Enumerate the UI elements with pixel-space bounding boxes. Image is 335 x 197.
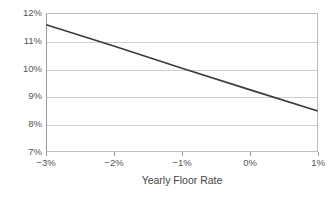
x-tick-label: −3% — [26, 157, 66, 168]
data-series-line — [47, 14, 317, 151]
line-chart: 12% 11% 10% 9% 8% 7% −3% −2% −1% 0% 1% Y… — [0, 0, 335, 197]
y-tick-label: 10% — [2, 64, 42, 74]
x-tick-mark — [318, 152, 319, 156]
y-tick-label: 11% — [2, 36, 42, 46]
y-tick-label: 12% — [2, 8, 42, 18]
y-tick-label: 8% — [2, 119, 42, 129]
x-tick-label: −2% — [94, 157, 134, 168]
x-tick-label: 0% — [230, 157, 270, 168]
y-tick-label: 7% — [2, 147, 42, 157]
x-tick-label: 1% — [298, 157, 335, 168]
x-tick-mark — [114, 152, 115, 156]
x-tick-label: −1% — [162, 157, 202, 168]
y-tick-label: 9% — [2, 91, 42, 101]
plot-area — [46, 13, 318, 152]
x-tick-mark — [250, 152, 251, 156]
series-polyline — [47, 25, 317, 111]
x-axis-title: Yearly Floor Rate — [46, 174, 318, 186]
x-tick-mark — [46, 152, 47, 156]
x-tick-mark — [182, 152, 183, 156]
